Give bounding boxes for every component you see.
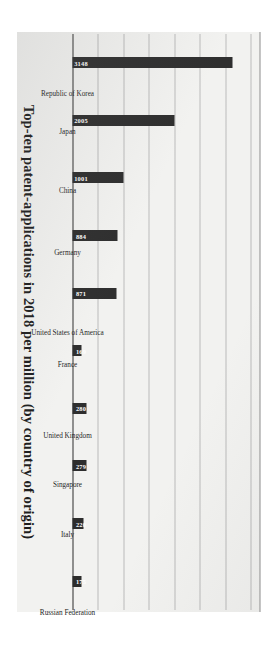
bar[interactable]: 280 [72,403,86,414]
scanned-page: 314820051001884871169280279220175 Republ… [0,0,277,646]
bar-value-label: 884 [75,232,85,239]
category-label: Italy [60,530,73,538]
bar-slot: 3148 [72,34,250,92]
bar-value-label: 169 [75,347,85,354]
bar-value-label: 871 [75,290,85,297]
bar-value-label: 175 [75,578,85,585]
bar[interactable]: 871 [72,288,116,299]
category-label: France [57,361,77,369]
bar-value-label: 279 [75,462,85,469]
category-label: China [58,187,75,195]
bar[interactable]: 1001 [72,172,123,183]
bar[interactable]: 884 [72,230,117,241]
x-axis-line [72,34,73,610]
bar-value-label: 220 [75,520,85,527]
bar-slot: 280 [72,380,250,438]
bar-slot: 871 [72,264,250,322]
category-label: Germany [54,249,81,257]
bar-slot: 2005 [72,92,250,150]
bar[interactable]: 279 [72,460,86,471]
bar-slot: 279 [72,437,250,495]
bar[interactable]: 2005 [72,115,174,126]
bar-value-label: 3148 [74,59,88,66]
bar-series: 314820051001884871169280279220175 [72,34,250,610]
bar-value-label: 2005 [74,117,88,124]
chart-top-border [259,32,260,612]
rotated-chart-stage: 314820051001884871169280279220175 Republ… [17,32,260,612]
category-label: Japan [59,129,75,137]
bar-value-label: 280 [75,405,85,412]
category-label: Russian Federation [39,609,94,617]
bar[interactable]: 3148 [72,57,232,68]
bar-chart: 314820051001884871169280279220175 Republ… [17,32,260,612]
bar-slot: 884 [72,207,250,265]
plot-area: 314820051001884871169280279220175 [72,34,250,610]
bar-value-label: 1001 [74,174,88,181]
chart-title: Top-ten patent-applications in 2018 per … [19,32,36,612]
category-label: Singapore [52,481,81,489]
bar-slot: 175 [72,552,250,610]
chart-paper: 314820051001884871169280279220175 Republ… [17,32,260,612]
bar-slot: 1001 [72,149,250,207]
bar-slot: 220 [72,495,250,553]
